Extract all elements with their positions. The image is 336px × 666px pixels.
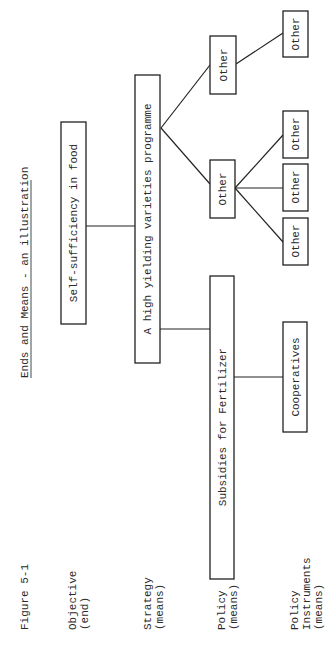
- svg-text:Other: Other: [218, 48, 230, 81]
- svg-text:Other: Other: [290, 17, 302, 50]
- svg-text:Other: Other: [290, 224, 302, 257]
- svg-text:Cooperatives: Cooperatives: [290, 337, 302, 416]
- svg-text:Other: Other: [217, 172, 229, 205]
- svg-text:Self-sufficiency in food: Self-sufficiency in food: [68, 144, 80, 302]
- node-instrument-other-4: Other: [283, 11, 308, 57]
- edge-other-b-instr-4: [236, 33, 283, 64]
- node-objective: Self-sufficiency in food: [61, 122, 86, 324]
- level-label-strategy: Strategy (means): [142, 577, 166, 630]
- svg-text:Objective: Objective: [67, 571, 79, 630]
- node-instrument-other-3: Other: [283, 218, 308, 265]
- edge-strategy-other-b: [161, 65, 210, 128]
- level-label-policy: Policy (means): [216, 584, 240, 630]
- svg-text:(end): (end): [79, 597, 91, 630]
- node-instrument-other-1: Other: [283, 111, 308, 158]
- svg-text:Policy: Policy: [289, 590, 301, 630]
- edges: [86, 33, 283, 377]
- svg-text:A high yielding varieties prog: A high yielding varieties programme: [142, 103, 154, 334]
- svg-text:Instruments: Instruments: [301, 557, 313, 630]
- edge-other-a-instr-3: [235, 188, 283, 242]
- figure-number: Figure 5-1: [19, 564, 31, 630]
- svg-text:Policy: Policy: [216, 590, 228, 630]
- level-label-objective: Objective (end): [67, 571, 91, 630]
- svg-text:Other: Other: [290, 170, 302, 203]
- node-instrument-cooperatives: Cooperatives: [283, 322, 307, 432]
- svg-text:Strategy: Strategy: [142, 577, 154, 630]
- svg-text:Subsidies for Fertilizer: Subsidies for Fertilizer: [217, 348, 229, 506]
- svg-text:(means): (means): [228, 584, 240, 630]
- node-policy-subsidies: Subsidies for Fertilizer: [210, 276, 234, 579]
- figure-title: Ends and Means - an illustration: [19, 167, 31, 378]
- node-instrument-other-2: Other: [283, 164, 308, 211]
- svg-text:(means): (means): [154, 584, 166, 630]
- node-policy-other-a: Other: [210, 160, 235, 218]
- svg-text:Other: Other: [290, 117, 302, 150]
- level-label-policy-instruments: Policy Instruments (means): [289, 557, 325, 630]
- edge-strategy-other-a: [161, 128, 210, 184]
- node-policy-other-b: Other: [210, 36, 236, 94]
- ends-means-diagram: Figure 5-1 Ends and Means - an illustrat…: [0, 0, 336, 666]
- edge-other-a-instr-1: [235, 135, 283, 188]
- svg-text:(means): (means): [313, 584, 325, 630]
- node-strategy: A high yielding varieties programme: [135, 75, 160, 363]
